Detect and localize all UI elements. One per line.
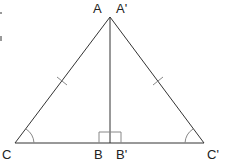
label-A-prime: A' <box>116 1 127 16</box>
diagram-canvas: A A' C B B' C' <box>0 0 226 163</box>
tick-mark-right <box>153 77 163 85</box>
edge-artifact <box>0 12 2 14</box>
label-B-prime: B' <box>116 147 127 162</box>
label-C: C <box>2 147 11 162</box>
side-AC <box>15 17 110 143</box>
tick-mark-left <box>57 77 67 85</box>
label-A: A <box>93 1 102 16</box>
edge-artifact <box>0 36 2 41</box>
congruent-triangles-diagram: A A' C B B' C' <box>0 0 226 163</box>
label-B: B <box>94 147 103 162</box>
angle-arc-C <box>26 129 34 143</box>
label-C-prime: C' <box>207 147 219 162</box>
angle-arc-C-prime <box>185 129 193 143</box>
side-A-prime-C-prime <box>110 17 204 143</box>
